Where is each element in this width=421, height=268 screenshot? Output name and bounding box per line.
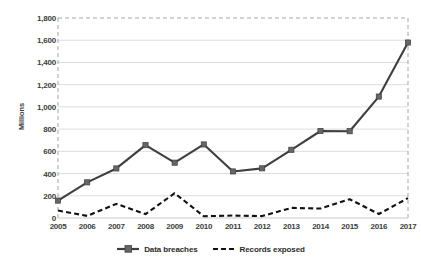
series-line-0 [58, 43, 408, 201]
chart-container: Millions 02004006008001,0001,2001,4001,6… [0, 0, 421, 268]
plot-area [0, 0, 421, 268]
data-point-marker [55, 198, 60, 203]
data-point-marker [143, 143, 148, 148]
legend-key-solid-square-icon [116, 244, 140, 254]
data-point-marker [260, 166, 265, 171]
plot-border [58, 18, 408, 218]
data-series-layer [55, 40, 410, 216]
data-point-marker [289, 147, 294, 152]
series-line-1 [58, 193, 408, 216]
data-point-marker [376, 94, 381, 99]
legend-key-dashed-icon [212, 244, 236, 254]
data-point-marker [85, 180, 90, 185]
legend-item-records-exposed[interactable]: Records exposed [212, 244, 305, 254]
legend-label-records-exposed: Records exposed [240, 245, 305, 254]
data-point-marker [318, 128, 323, 133]
data-point-marker [405, 40, 410, 45]
chart-legend: Data breaches Records exposed [0, 244, 421, 254]
data-point-marker [172, 160, 177, 165]
data-point-marker [347, 129, 352, 134]
gridlines [58, 40, 408, 218]
legend-item-data-breaches[interactable]: Data breaches [116, 244, 197, 254]
data-point-marker [114, 166, 119, 171]
legend-label-data-breaches: Data breaches [144, 245, 197, 254]
data-point-marker [201, 142, 206, 147]
data-point-marker [230, 169, 235, 174]
